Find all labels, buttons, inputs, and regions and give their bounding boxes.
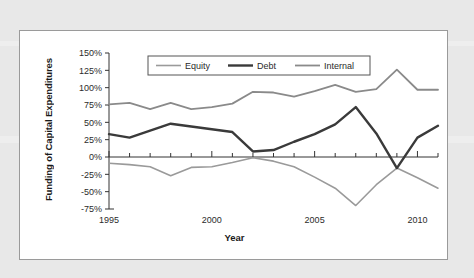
y-axis-tick-label: 0% <box>89 152 102 162</box>
y-axis-tick-label: 150% <box>79 48 102 58</box>
series-line-debt <box>109 107 438 168</box>
chart-card: Funding of Capital Expenditures 150%125%… <box>19 30 448 260</box>
y-axis-tick-label: 50% <box>84 118 102 128</box>
x-axis-tick-label: 2005 <box>305 215 325 225</box>
line-chart-plot: 150%125%100%75%50%25%0%-25%-50%-75%19952… <box>20 31 449 231</box>
y-axis-tick-label: -25% <box>81 170 102 180</box>
y-axis-tick-label: 75% <box>84 100 102 110</box>
y-axis-tick-label: 100% <box>79 83 102 93</box>
y-axis-tick-label: -50% <box>81 187 102 197</box>
x-axis-title-label: Year <box>224 232 244 243</box>
y-axis-tick-label: -75% <box>81 204 102 214</box>
x-axis-tick-label: 1995 <box>99 215 119 225</box>
series-line-internal <box>109 70 438 110</box>
legend-label-internal: Internal <box>324 61 354 71</box>
chart-figure: Funding of Capital Expenditures 150%125%… <box>20 31 449 261</box>
x-axis-title: Year <box>20 232 449 243</box>
y-axis-tick-label: 125% <box>79 66 102 76</box>
x-axis-tick-label: 2000 <box>202 215 222 225</box>
series-line-equity <box>109 158 438 206</box>
x-axis-tick-label: 2010 <box>407 215 427 225</box>
y-axis-tick-label: 25% <box>84 135 102 145</box>
legend-label-debt: Debt <box>257 61 277 71</box>
legend-label-equity: Equity <box>185 61 211 71</box>
